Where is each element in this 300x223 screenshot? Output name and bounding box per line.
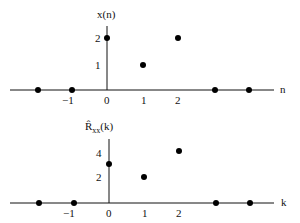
top-ytick-2: 2 [95,33,101,44]
data-point [69,87,75,93]
data-point [246,87,252,93]
bottom-plot [10,139,274,206]
bottom-ytick-2: 2 [96,172,102,183]
top-plot [10,26,274,93]
bottom-x-label: k [281,197,287,208]
top-ytick-1: 1 [95,60,101,71]
top-xtick: 1 [141,95,147,106]
bottom-y-label: R̂xx(k) [85,121,113,135]
top-y-label: x(n) [97,9,115,20]
data-point [36,200,42,206]
data-point [247,200,253,206]
bottom-xtick: −1 [63,208,75,219]
top-x-label: n [280,84,286,95]
data-point [176,148,182,154]
data-point [213,200,219,206]
data-point [106,161,112,167]
bottom-xtick: 2 [176,208,182,219]
data-point [212,87,218,93]
data-point [140,62,146,68]
bottom-ytick-4: 4 [96,148,102,159]
data-point [141,174,147,180]
data-point [35,87,41,93]
bottom-xtick: 0 [106,208,112,219]
data-point [104,35,110,41]
data-point [71,200,77,206]
data-point [175,35,181,41]
plots-svg [0,0,300,223]
top-xtick: 2 [175,95,181,106]
top-xtick: −1 [62,95,74,106]
top-xtick: 0 [104,95,110,106]
bottom-xtick: 1 [142,208,148,219]
